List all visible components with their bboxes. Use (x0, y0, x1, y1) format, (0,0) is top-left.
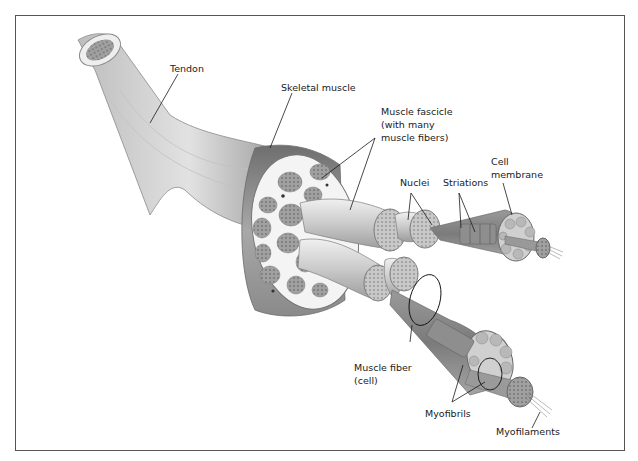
figure-caption-clipped (16, 456, 576, 461)
label-fascicle-line3: muscle fibers) (381, 132, 448, 144)
label-myofilaments: Myofilaments (496, 426, 560, 438)
label-striations: Striations (443, 177, 488, 189)
label-fascicle-line1: Muscle fascicle (381, 106, 453, 118)
muscle-anatomy-illustration (0, 0, 638, 461)
label-muscle-fiber-line1: Muscle fiber (354, 362, 412, 374)
label-cell-membrane-line1: Cell (491, 156, 509, 168)
label-nuclei: Nuclei (400, 177, 429, 189)
label-myofibrils: Myofibrils (425, 408, 471, 420)
label-muscle-fiber-line2: (cell) (354, 375, 378, 387)
label-cell-membrane-line2: membrane (491, 169, 543, 181)
muscle-fiber-upper-shape (430, 210, 563, 261)
label-fascicle-line2: (with many (381, 119, 435, 131)
label-tendon: Tendon (170, 63, 204, 75)
muscle-fiber-lower-shape (390, 271, 552, 417)
label-skeletal-muscle: Skeletal muscle (281, 82, 356, 94)
